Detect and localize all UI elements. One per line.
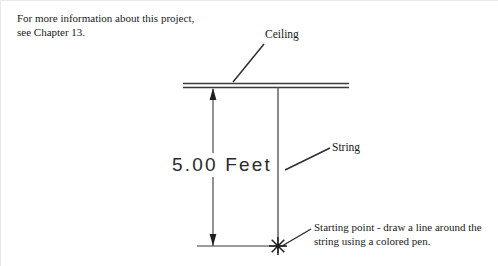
dimension-value-label: 5.00 Feet (170, 153, 275, 177)
dimension-arrowhead-down (210, 234, 217, 246)
dimension-arrowhead-up (210, 88, 217, 100)
ceiling-label: Ceiling (265, 28, 299, 42)
ceiling-line-group (183, 84, 349, 88)
starting-point-note: Starting point - draw a line around the … (314, 221, 494, 248)
starting-point-center-dot (276, 244, 281, 249)
starting-point-leader-line (282, 229, 311, 246)
ceiling-leader-line (233, 44, 264, 82)
diagram-canvas: For more information about this project,… (0, 0, 498, 266)
string-leader-line (285, 148, 330, 170)
string-label: String (332, 141, 360, 155)
intro-note: For more information about this project,… (17, 12, 207, 39)
